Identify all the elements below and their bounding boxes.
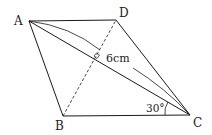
side-DC — [116, 20, 190, 115]
parallelogram-diagram: A D B C 6cm 30° — [0, 0, 212, 135]
vertex-label-C: C — [193, 116, 202, 130]
side-BA — [29, 21, 63, 116]
diagonal-AC — [29, 21, 190, 115]
length-label-6cm: 6cm — [106, 52, 130, 65]
vertex-label-A: A — [13, 14, 23, 28]
side-AD — [29, 20, 116, 21]
side-CB — [63, 115, 190, 116]
angle-arc-C — [165, 102, 168, 115]
dimension-arc-upper — [29, 21, 100, 50]
angle-label-30deg: 30° — [146, 102, 165, 114]
vertex-label-D: D — [119, 6, 129, 20]
diagonal-BD-dashed — [63, 20, 116, 116]
vertex-label-B: B — [55, 119, 64, 133]
